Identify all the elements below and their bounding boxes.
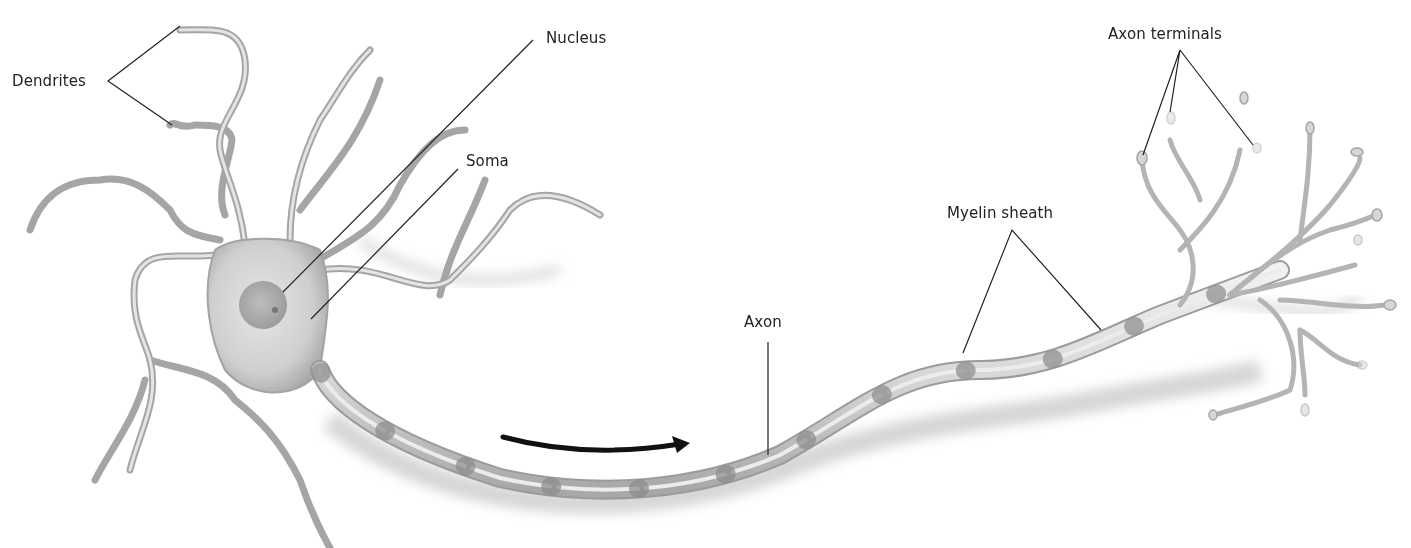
label-myelin-sheath: Myelin sheath: [947, 204, 1053, 222]
label-nucleus: Nucleus: [546, 29, 606, 47]
neuron-diagram: Dendrites Nucleus Soma Axon Myelin sheat…: [0, 0, 1411, 548]
myelin-leader: [963, 230, 1101, 353]
terminal-bulbs: [1137, 92, 1396, 420]
dendrites-leader: [108, 26, 180, 125]
axon-terminals-leader: [1143, 50, 1253, 155]
soma: [208, 239, 328, 393]
signal-direction-arrow-icon: [503, 436, 690, 453]
label-dendrites: Dendrites: [12, 72, 86, 90]
label-soma: Soma: [466, 152, 509, 170]
label-axon-terminals: Axon terminals: [1108, 25, 1222, 43]
label-axon: Axon: [744, 313, 782, 331]
soma-leader: [311, 169, 458, 319]
nucleolus: [272, 307, 278, 313]
neuron-illustration: [0, 0, 1411, 548]
nucleus: [239, 281, 287, 329]
